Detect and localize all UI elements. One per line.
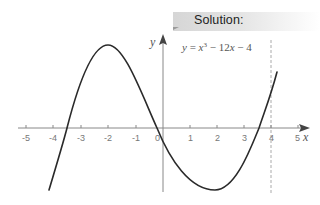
tick-label: 4 [269, 133, 274, 143]
cubic-function-plot: -5 -4 -3 -2 -1 0 1 2 3 4 5 x y [0, 0, 320, 205]
tick-label: -1 [132, 133, 140, 143]
tick-label: -5 [22, 133, 30, 143]
tick-label: 1 [188, 133, 193, 143]
y-axis-label: y [149, 35, 156, 49]
tick-label: -3 [77, 133, 85, 143]
x-axis-label: x [302, 130, 309, 144]
tick-label: 5 [295, 133, 300, 143]
tick-label: 2 [215, 133, 220, 143]
tick-label: 3 [242, 133, 247, 143]
tick-label: -2 [104, 133, 112, 143]
tick-label: -4 [49, 133, 57, 143]
